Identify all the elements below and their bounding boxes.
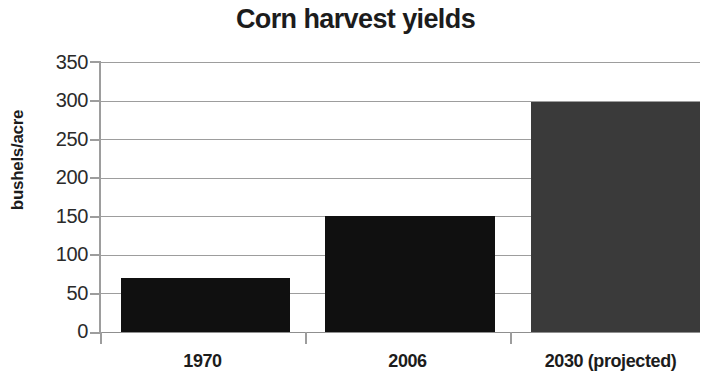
y-tick-label-250: 250 [18, 129, 88, 149]
bar-2030-projected [531, 102, 700, 332]
corn-harvest-yields-chart: Corn harvest yields bushels/acre 350 300… [0, 0, 711, 375]
y-tick-label-100: 100 [18, 244, 88, 264]
x-tick-mark-2 [510, 332, 512, 344]
x-tick-label-2006: 2006 [305, 350, 510, 372]
x-tick-label-1970: 1970 [100, 350, 305, 372]
gridline-baseline-0 [100, 332, 700, 333]
plot-area [100, 62, 700, 332]
x-tick-mark-1 [305, 332, 307, 344]
x-tick-label-2030-projected: 2030 (projected) [510, 350, 711, 372]
y-tick-label-150: 150 [18, 206, 88, 226]
y-tick-label-350: 350 [18, 52, 88, 72]
gridline-350 [100, 62, 700, 63]
y-tick-label-300: 300 [18, 90, 88, 110]
y-axis-tick-labels: 350 300 250 200 150 100 50 0 [10, 0, 88, 375]
y-tick-label-0: 0 [18, 321, 88, 341]
y-tick-label-200: 200 [18, 167, 88, 187]
bar-2006 [325, 216, 495, 332]
bar-1970 [121, 278, 290, 332]
y-tick-label-50: 50 [18, 283, 88, 303]
chart-title: Corn harvest yields [0, 2, 711, 36]
x-tick-mark-start [100, 332, 102, 344]
